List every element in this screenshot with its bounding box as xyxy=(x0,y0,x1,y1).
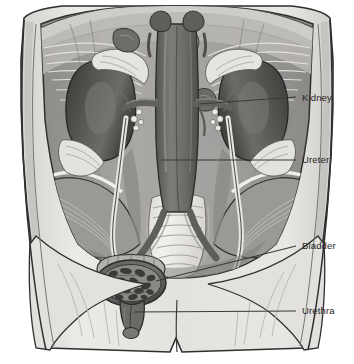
label-bladder: Bladder xyxy=(302,240,336,251)
label-ureter: Ureter xyxy=(302,154,329,165)
anatomy-figure: Kidney Ureter Bladder Urethra xyxy=(0,0,354,364)
anatomy-illustration xyxy=(0,0,354,364)
label-kidney: Kidney xyxy=(302,92,332,103)
label-urethra: Urethra xyxy=(302,305,335,316)
